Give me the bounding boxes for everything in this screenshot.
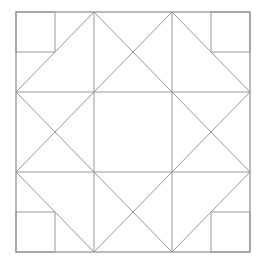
grid-lines — [16, 12, 250, 252]
corner-square-top-left — [16, 12, 55, 52]
outer-square-frame — [16, 12, 250, 252]
corner-square-bottom-right — [211, 212, 250, 252]
corner-squares — [16, 12, 250, 252]
corner-square-top-right — [211, 12, 250, 52]
corner-square-bottom-left — [16, 212, 55, 252]
quilt-block-diagram — [0, 0, 264, 271]
diagonal-lines — [16, 12, 250, 252]
